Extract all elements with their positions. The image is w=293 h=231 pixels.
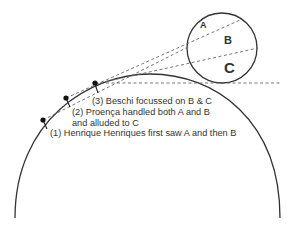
observer-2-dot (63, 95, 68, 100)
observer-3-dot (92, 80, 97, 85)
sight-line-2 (66, 20, 240, 98)
observer-2-label-line1: (2) Proença handled both A and B (72, 107, 210, 118)
observer-1-dot (40, 117, 45, 122)
observer-3-label: (3) Beschi focussed on B & C (92, 96, 212, 107)
zone-c-label: C (224, 59, 235, 76)
target-circle (187, 13, 257, 83)
zone-a-label: A (200, 20, 207, 30)
zone-b-label: B (224, 34, 232, 46)
observer-1-label: (1) Henrique Henriques first saw A and t… (50, 128, 236, 139)
